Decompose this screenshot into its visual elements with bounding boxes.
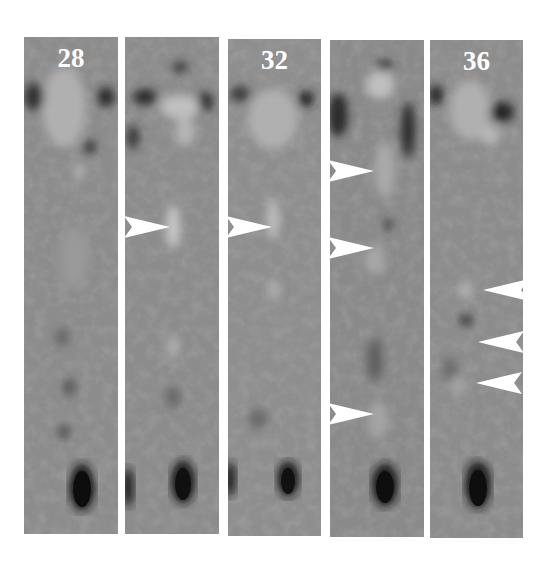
arrow-left-icon (476, 372, 522, 394)
arrow-right-icon (328, 160, 374, 182)
frame-number-label: 36 (430, 46, 523, 76)
arrow-right-icon (328, 237, 374, 259)
image-panel-30 (125, 37, 219, 534)
image-panel-34 (330, 40, 424, 537)
frame-number-label: 32 (228, 45, 321, 75)
arrow-right-icon (124, 216, 170, 238)
arrow-right-icon (328, 403, 374, 425)
grayscale-image-texture (125, 37, 219, 534)
grayscale-image-texture (330, 40, 424, 537)
frame-number-label: 28 (24, 43, 118, 73)
arrow-right-icon (226, 216, 272, 238)
grayscale-image-texture (228, 39, 321, 536)
image-panel-28: 28 (24, 37, 118, 534)
grayscale-image-texture (24, 37, 118, 534)
arrow-left-icon (478, 331, 524, 353)
arrow-left-icon (483, 279, 529, 301)
image-panel-32: 32 (228, 39, 321, 536)
